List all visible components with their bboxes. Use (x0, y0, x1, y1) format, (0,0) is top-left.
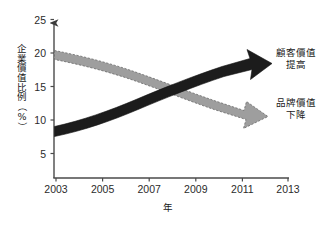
y-tick-label: 15 (34, 81, 46, 93)
x-tick-label: 2009 (184, 183, 208, 195)
x-tick-label: 2013 (276, 183, 300, 195)
annotation-line-2: 下降 (276, 109, 316, 121)
x-axis-title: 年 (0, 200, 336, 214)
y-axis-title: 企 業 價 值 比 例 （ % ） (14, 44, 30, 131)
x-tick-label: 2003 (44, 183, 68, 195)
annotation-line-1: 顧客價值 (276, 47, 316, 59)
annotation-customer-value-rising: 顧客價值 提高 (276, 47, 316, 71)
y-axis-title-char: （ (17, 102, 27, 112)
annotation-brand-value-falling: 品牌價值 下降 (276, 97, 316, 121)
chart-container: 25 20 15 10 5 2003 2005 2007 2009 2011 2… (0, 0, 336, 230)
y-tick-label: 5 (40, 148, 46, 160)
y-tick-label: 20 (34, 47, 46, 59)
y-axis-title-char: 例 (17, 92, 27, 102)
annotation-line-2: 提高 (276, 59, 316, 71)
x-tick-labels: 2003 2005 2007 2009 2011 2013 (44, 183, 300, 195)
x-tick-label: 2007 (138, 183, 162, 195)
y-axis-title-char: ） (17, 121, 27, 131)
x-tick-label: 2005 (91, 183, 115, 195)
y-tick-label: 10 (34, 114, 46, 126)
y-tick-labels: 25 20 15 10 5 (34, 14, 46, 160)
y-tick-label: 25 (34, 14, 46, 26)
annotation-line-1: 品牌價值 (276, 97, 316, 109)
x-tick-label: 2011 (231, 183, 254, 195)
y-axis-title-char: % (17, 112, 26, 122)
